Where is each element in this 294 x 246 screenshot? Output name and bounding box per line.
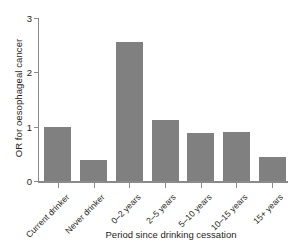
y-axis-line [38, 18, 39, 182]
x-tick-mark [58, 183, 59, 188]
x-tick-mark [236, 183, 237, 188]
bar [80, 160, 107, 181]
bar [223, 132, 250, 181]
y-tick-0: 0 [38, 181, 39, 182]
y-tick-mark [34, 181, 39, 182]
x-category-label: 2–5 years [144, 192, 178, 226]
x-axis-line [38, 181, 288, 183]
x-category-label: 5–10 years [177, 192, 214, 229]
x-tick-mark [94, 183, 95, 188]
x-tick-mark [165, 183, 166, 188]
y-axis-title: OR for oesophageal cancer [12, 18, 26, 178]
y-tick-mark [34, 72, 39, 73]
x-tick-mark [272, 183, 273, 188]
bar [152, 120, 179, 181]
y-tick-2: 2 [38, 72, 39, 73]
x-category-label: 10–15 years [209, 192, 250, 233]
x-category-label: 0–2 years [109, 192, 143, 226]
bar [44, 127, 71, 181]
x-axis-title-text: Period since drinking cessation [106, 229, 237, 240]
x-axis-title: Period since drinking cessation [0, 229, 294, 240]
y-tick-label: 0 [27, 176, 32, 187]
y-tick-label: 1 [27, 121, 32, 132]
y-tick-mark [34, 18, 39, 19]
plot-area: 0123 Current drinkerNever drinker0–2 yea… [38, 18, 288, 182]
y-tick-3: 3 [38, 18, 39, 19]
bar [187, 133, 214, 181]
y-tick-mark [34, 127, 39, 128]
x-tick-mark [201, 183, 202, 188]
y-tick-label: 3 [27, 13, 32, 24]
chart-figure: OR for oesophageal cancer 0123 Current d… [0, 0, 294, 246]
bar [259, 157, 286, 181]
bar [116, 42, 143, 181]
x-category-label: 15+ years [251, 192, 285, 226]
y-tick-label: 2 [27, 67, 32, 78]
x-tick-mark [129, 183, 130, 188]
y-tick-1: 1 [38, 127, 39, 128]
